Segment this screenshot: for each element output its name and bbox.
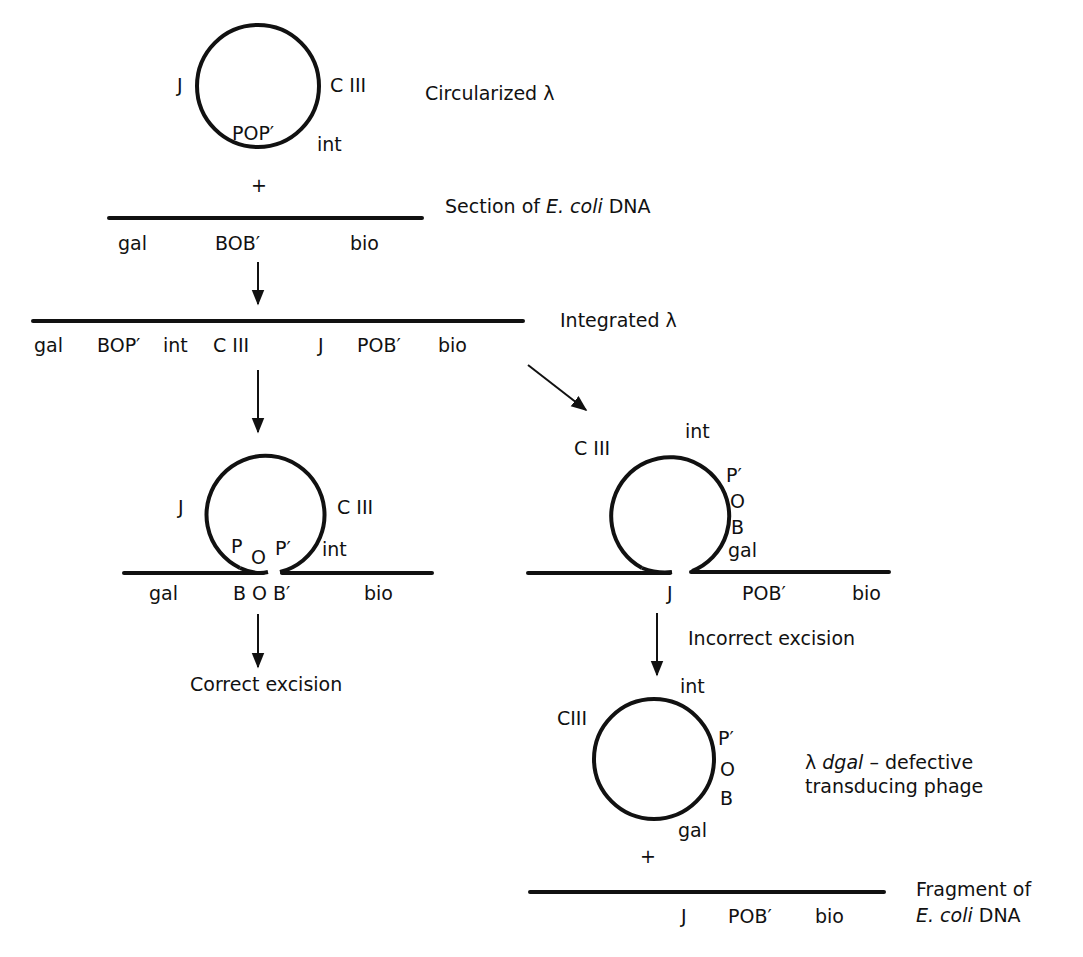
- label-ciii: C III: [330, 74, 366, 96]
- caption-integrated: Integrated λ: [560, 309, 677, 331]
- caption-circularized: Circularized λ: [425, 82, 554, 104]
- label-j: J: [680, 905, 687, 927]
- label-pob: POB′: [742, 582, 786, 604]
- label-int: int: [680, 675, 705, 697]
- label-ciii: C III: [337, 496, 373, 518]
- label-ciii: C III: [574, 437, 610, 459]
- caption-correct-excision: Correct excision: [190, 673, 342, 695]
- label-bio: bio: [350, 232, 379, 254]
- circularized-lambda: J C III POP′ int Circularized λ +: [176, 25, 554, 196]
- plus-sign: +: [251, 174, 267, 196]
- label-bio: bio: [364, 582, 393, 604]
- caption-fragment-line2: E. coli DNA: [916, 904, 1021, 926]
- label-bio: bio: [438, 334, 467, 356]
- label-p-prime: P′: [726, 464, 742, 486]
- label-int: int: [163, 334, 188, 356]
- dgal-circle: [594, 699, 714, 819]
- lambda-loop: [611, 457, 729, 571]
- label-int: int: [322, 538, 347, 560]
- label-bob: B O B′: [233, 582, 290, 604]
- label-gal: gal: [118, 232, 147, 254]
- caption-fragment-line1: Fragment of: [916, 878, 1032, 900]
- label-ciii: CIII: [557, 707, 587, 729]
- label-o: O: [730, 490, 745, 512]
- label-p-prime: P′: [718, 727, 734, 749]
- label-bio: bio: [852, 582, 881, 604]
- arrow-diagonal-icon: [528, 365, 586, 410]
- label-j: J: [176, 74, 183, 96]
- label-p: P: [231, 535, 242, 557]
- lambda-integration-diagram: J C III POP′ int Circularized λ + gal BO…: [0, 0, 1083, 957]
- correct-excision-branch: J C III P O P′ int gal B O B′ bio Correc…: [124, 456, 432, 695]
- label-j: J: [317, 334, 324, 356]
- plus-sign: +: [640, 845, 656, 867]
- label-o: O: [720, 758, 735, 780]
- label-int: int: [685, 420, 710, 442]
- label-pob: POB′: [357, 334, 401, 356]
- label-gal: gal: [34, 334, 63, 356]
- label-p-prime: P′: [275, 537, 291, 559]
- caption-dgal-line2: transducing phage: [805, 775, 983, 797]
- label-b: B: [720, 787, 733, 809]
- label-pop: POP′: [232, 122, 274, 144]
- label-j: J: [666, 582, 673, 604]
- ecoli-section: gal BOB′ bio Section of E. coli DNA: [109, 195, 651, 304]
- label-o: O: [251, 546, 266, 568]
- label-b: B: [731, 516, 744, 538]
- caption-dgal-line1: λ dgal – defective: [805, 751, 973, 773]
- label-j: J: [177, 496, 184, 518]
- label-bob: BOB′: [215, 232, 260, 254]
- integrated-lambda: gal BOP′ int C III J POB′ bio Integrated…: [33, 309, 677, 432]
- label-int: int: [317, 133, 342, 155]
- caption-section: Section of E. coli DNA: [445, 195, 651, 217]
- label-pob: POB′: [728, 905, 772, 927]
- label-gal: gal: [678, 819, 707, 841]
- lambda-dgal-phage: int CIII P′ O B gal λ dgal – defective t…: [557, 675, 983, 867]
- label-bio: bio: [815, 905, 844, 927]
- incorrect-excision-intermediate: C III int P′ O B gal J POB′ bio Incorrec…: [528, 420, 889, 675]
- label-ciii: C III: [213, 334, 249, 356]
- caption-incorrect-excision: Incorrect excision: [688, 627, 855, 649]
- label-gal: gal: [728, 539, 757, 561]
- label-bop: BOP′: [97, 334, 140, 356]
- ecoli-fragment: J POB′ bio Fragment of E. coli DNA: [530, 878, 1032, 927]
- label-gal: gal: [149, 582, 178, 604]
